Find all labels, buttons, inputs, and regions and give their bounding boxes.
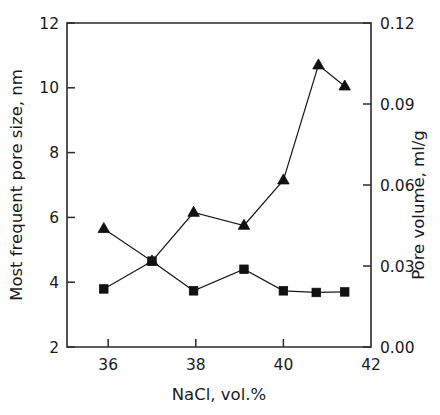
plot-frame (67, 23, 371, 347)
data-point-triangle (98, 223, 110, 233)
x-tick-label: 38 (186, 356, 206, 374)
series-layer (98, 59, 350, 297)
left-axis-title: Most frequent pore size, nm (7, 69, 26, 301)
left-axis-tick-labels: 24681012 (39, 15, 59, 357)
x-tick-label: 40 (274, 356, 294, 374)
right-axis-title: Pore volume, ml/g (409, 130, 428, 280)
x-tick-label: 42 (361, 356, 381, 374)
series-line-triangle (104, 65, 345, 261)
x-axis-tick-labels: 36384042 (98, 356, 381, 374)
x-axis-title: NaCl, vol.% (172, 385, 266, 404)
data-point-square (100, 285, 109, 294)
left-tick-label: 10 (39, 79, 59, 97)
chart-figure: 24681012 0.000.030.060.090.12 36384042 M… (0, 0, 440, 415)
x-tick-label: 36 (98, 356, 118, 374)
data-point-triangle (313, 59, 325, 69)
data-point-square (240, 265, 249, 274)
left-tick-label: 4 (49, 274, 59, 292)
data-point-square (148, 257, 157, 266)
left-tick-label: 2 (49, 339, 59, 357)
data-point-triangle (339, 80, 351, 90)
left-tick-label: 12 (39, 15, 59, 33)
data-point-triangle (188, 206, 200, 216)
chart-canvas: 24681012 0.000.030.060.090.12 36384042 M… (0, 0, 440, 415)
left-tick-label: 8 (49, 144, 59, 162)
data-point-square (340, 288, 349, 297)
left-axis-ticks (67, 23, 75, 347)
right-tick-label: 0.00 (380, 339, 415, 357)
right-tick-label: 0.09 (380, 96, 415, 114)
x-axis-ticks (108, 339, 283, 347)
series-line-square (104, 261, 345, 292)
axes-box (67, 23, 371, 347)
data-point-square (279, 287, 288, 296)
data-point-square (312, 288, 321, 297)
left-tick-label: 6 (49, 209, 59, 227)
data-point-square (189, 287, 198, 296)
right-tick-label: 0.12 (380, 15, 415, 33)
right-axis-ticks (363, 23, 371, 347)
data-point-triangle (278, 174, 290, 184)
